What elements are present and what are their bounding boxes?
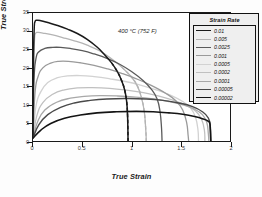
y-tick-label: 30 <box>3 27 29 33</box>
curve-strain-rate-0.0001 <box>33 96 209 141</box>
legend-color-swatch <box>196 30 211 31</box>
legend-color-swatch <box>196 55 211 56</box>
y-tick-label: 35 <box>3 9 29 15</box>
legend-item[interactable]: 0.0002 <box>196 68 254 76</box>
legend-item[interactable]: 0.00005 <box>196 85 254 93</box>
legend-color-swatch <box>196 47 211 48</box>
legend-color-swatch <box>196 64 211 65</box>
x-tick-mark <box>132 142 133 147</box>
curve-strain-rate-0.00002 <box>33 111 211 141</box>
y-tick-label: 10 <box>3 102 29 108</box>
legend-color-swatch <box>196 39 211 40</box>
y-tick-label: 25 <box>3 46 29 52</box>
legend-item-label: 0.0025 <box>214 43 230 51</box>
temperature-annotation: 400 °C (752 F) <box>118 28 157 34</box>
legend-item-label: 0.0005 <box>214 60 230 68</box>
x-tick-mark <box>82 142 83 147</box>
legend-title: Strain Rate <box>193 17 256 23</box>
y-tick-label: 15 <box>3 83 29 89</box>
y-tick-label: 20 <box>3 65 29 71</box>
legend-item[interactable]: 0.00002 <box>196 94 254 102</box>
legend: Strain Rate 0.010.0050.00250.0010.00050.… <box>189 13 259 102</box>
legend-item-label: 0.00002 <box>214 94 233 102</box>
legend-color-swatch <box>196 81 211 82</box>
curve-strain-rate-0.01 <box>33 20 128 141</box>
x-tick-mark <box>231 142 232 147</box>
legend-item-label: 0.0001 <box>214 77 230 85</box>
legend-item-label: 0.001 <box>214 52 227 60</box>
legend-color-swatch <box>196 89 211 90</box>
legend-item-label: 0.0002 <box>214 68 230 76</box>
legend-entries: 0.010.0050.00250.0010.00050.00020.00010.… <box>193 25 256 105</box>
legend-item-label: 0.00005 <box>214 85 233 93</box>
x-axis-title: True Strain <box>32 172 231 181</box>
legend-item[interactable]: 0.005 <box>196 35 254 43</box>
legend-item-label: 0.005 <box>214 35 227 43</box>
legend-item[interactable]: 0.0001 <box>196 77 254 85</box>
legend-item[interactable]: 0.0005 <box>196 60 254 68</box>
y-tick-label: 5 <box>3 120 29 126</box>
y-tick-label: 0 <box>3 139 29 145</box>
chart-container: True Stress (Mpa) 05101520253035 00.511.… <box>0 0 262 197</box>
legend-item[interactable]: 0.0025 <box>196 43 254 51</box>
legend-color-swatch <box>196 72 211 73</box>
legend-item-label: 0.01 <box>214 27 224 35</box>
legend-item[interactable]: 0.01 <box>196 27 254 35</box>
x-tick-mark <box>32 142 33 147</box>
x-tick-mark <box>181 142 182 147</box>
legend-item[interactable]: 0.001 <box>196 52 254 60</box>
legend-color-swatch <box>196 97 211 98</box>
